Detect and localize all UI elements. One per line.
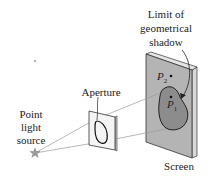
- aperture-label: Aperture: [81, 86, 120, 98]
- stray-dot: [34, 60, 36, 62]
- limit-label-line2: geometrical: [140, 22, 192, 34]
- star-icon: [30, 148, 40, 157]
- source-label-line2: light: [21, 121, 41, 133]
- source-label-line3: source: [17, 134, 46, 146]
- diffraction-diagram: Limit of geometrical shadow Aperture Poi…: [0, 0, 211, 182]
- limit-label-line3: shadow: [149, 36, 183, 48]
- screen-label: Screen: [164, 160, 194, 172]
- source-label-line1: Point: [19, 108, 42, 120]
- aperture-plate: [89, 111, 117, 151]
- limit-label-line1: Limit of: [148, 8, 185, 20]
- p2-dot: [170, 75, 173, 78]
